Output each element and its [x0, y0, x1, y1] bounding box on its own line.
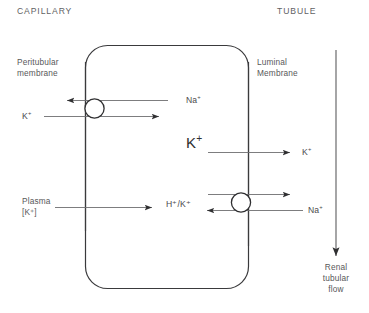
plasma-k-label-line2: [K⁺]	[22, 207, 37, 218]
luminal-membrane-label-line2: Membrane	[257, 68, 298, 79]
renal-tubular-flow-label-line3: flow	[306, 284, 366, 295]
k-influx-charge: +	[28, 110, 32, 116]
na-efflux-charge: +	[197, 94, 201, 100]
renal-tubular-flow-label-line2: tubular	[306, 273, 366, 284]
h-k-atpase-pump	[231, 193, 250, 212]
luminal-k-charge: +	[308, 146, 312, 152]
k-influx-label: K+	[22, 111, 31, 122]
capillary-label: CAPILLARY	[17, 6, 72, 17]
renal-potassium-handling-diagram: CAPILLARY TUBULE Peritubular membrane Lu…	[0, 0, 369, 313]
na-efflux-ion-text: Na	[186, 95, 197, 105]
peritubular-membrane-label-line1: Peritubular	[17, 57, 59, 68]
na-efflux-label: Na+	[186, 95, 201, 106]
na-influx-ion-text: Na	[308, 205, 319, 215]
intracellular-k-ion-text: K	[186, 134, 196, 151]
hk-exchange-label: H⁺/K⁺	[166, 199, 191, 210]
intracellular-k-label: K+	[186, 138, 202, 149]
na-k-atpase-pump	[85, 99, 104, 118]
na-influx-label: Na+	[308, 205, 323, 216]
tubule-label: TUBULE	[277, 6, 316, 17]
renal-tubular-flow-label-line1: Renal	[306, 262, 366, 273]
peritubular-membrane-label-line2: membrane	[17, 68, 58, 79]
plasma-k-label-line1: Plasma	[22, 196, 51, 207]
na-influx-charge: +	[319, 204, 323, 210]
intracellular-k-charge: +	[196, 133, 202, 144]
luminal-k-label: K+	[302, 147, 311, 158]
luminal-membrane-label-line1: Luminal	[257, 57, 287, 68]
tubular-cell-outline	[86, 46, 249, 289]
